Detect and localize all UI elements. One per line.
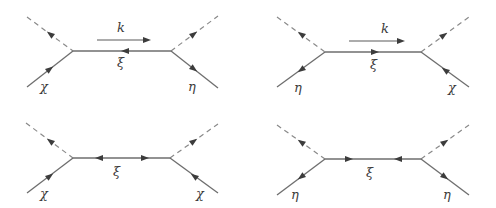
arrow-icon: [394, 156, 402, 162]
arrow-icon: [45, 29, 55, 39]
diagram-top-left: k ξ χ η: [27, 16, 218, 94]
particle-label-left: χ: [39, 186, 49, 201]
particle-label-left: η: [294, 80, 302, 95]
arrow-icon: [189, 29, 199, 39]
arrow-icon: [95, 155, 103, 161]
particle-label-right: χ: [195, 186, 205, 201]
arrow-icon: [345, 156, 353, 162]
arrow-icon: [296, 29, 306, 39]
particle-label-left: η: [291, 187, 299, 202]
arrow-icon: [141, 155, 149, 161]
propagator-label: ξ: [370, 57, 378, 72]
momentum-arrow-icon: [397, 38, 405, 44]
momentum-arrow-icon: [143, 37, 151, 43]
particle-label-left: χ: [39, 79, 49, 94]
particle-label-right: χ: [447, 80, 457, 95]
arrow-icon: [439, 30, 449, 40]
arrow-icon: [371, 49, 379, 55]
arrow-icon: [296, 137, 306, 147]
feynman-diagrams-figure: k ξ χ η k ξ η χ ξ χ χ: [0, 0, 496, 208]
momentum-label: k: [381, 21, 389, 36]
propagator-label: ξ: [117, 55, 125, 70]
diagram-bottom-right: ξ η η: [277, 125, 469, 202]
arrow-icon: [440, 137, 450, 147]
diagram-bottom-left: ξ χ χ: [26, 123, 218, 201]
diagram-top-right: k ξ η χ: [277, 17, 469, 95]
momentum-label: k: [117, 20, 125, 35]
propagator-label: ξ: [366, 165, 374, 180]
arrow-icon: [189, 136, 199, 146]
particle-label-right: η: [443, 187, 451, 202]
arrow-icon: [121, 48, 129, 54]
propagator-label: ξ: [113, 164, 121, 179]
arrow-icon: [45, 136, 55, 146]
particle-label-right: η: [188, 79, 196, 94]
